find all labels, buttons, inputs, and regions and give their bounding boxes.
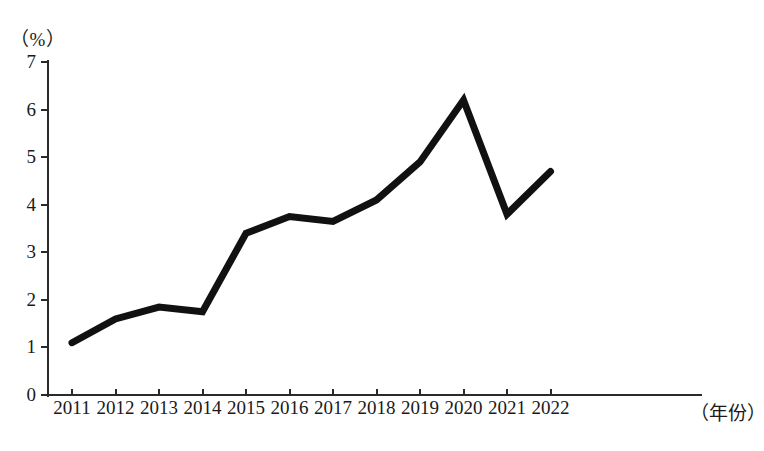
x-tick-mark	[158, 389, 160, 396]
y-tick-mark	[41, 156, 48, 158]
x-tick-mark	[115, 389, 117, 396]
y-tick-mark	[41, 299, 48, 301]
x-tick-mark	[419, 389, 421, 396]
x-tick-mark	[376, 389, 378, 396]
y-tick-mark	[41, 109, 48, 111]
x-tick-mark	[289, 389, 291, 396]
x-tick-mark	[202, 389, 204, 396]
y-tick-label: 2	[0, 290, 36, 309]
line-chart-figure: （%） 01234567 201120122013201420152016201…	[0, 0, 764, 451]
y-tick-label: 4	[0, 195, 36, 214]
x-tick-mark	[245, 389, 247, 396]
x-tick-label: 2022	[519, 398, 583, 419]
y-tick-label: 6	[0, 100, 36, 119]
y-tick-mark	[41, 61, 48, 63]
data-series-line	[0, 0, 764, 451]
y-axis-unit-label: （%）	[10, 24, 65, 51]
y-tick-label: 5	[0, 147, 36, 166]
x-axis-unit-label: （年份）	[690, 398, 764, 425]
y-tick-mark	[41, 394, 48, 396]
figure-caption	[0, 437, 764, 451]
x-tick-mark	[550, 389, 552, 396]
x-axis-line	[47, 394, 702, 396]
y-tick-label: 3	[0, 242, 36, 261]
y-tick-label: 1	[0, 337, 36, 356]
x-tick-mark	[463, 389, 465, 396]
x-tick-mark	[71, 389, 73, 396]
x-tick-mark	[506, 389, 508, 396]
y-tick-label: 7	[0, 52, 36, 71]
y-tick-mark	[41, 251, 48, 253]
x-tick-mark	[332, 389, 334, 396]
y-tick-label: 0	[0, 385, 36, 404]
y-tick-mark	[41, 204, 48, 206]
y-tick-mark	[41, 346, 48, 348]
